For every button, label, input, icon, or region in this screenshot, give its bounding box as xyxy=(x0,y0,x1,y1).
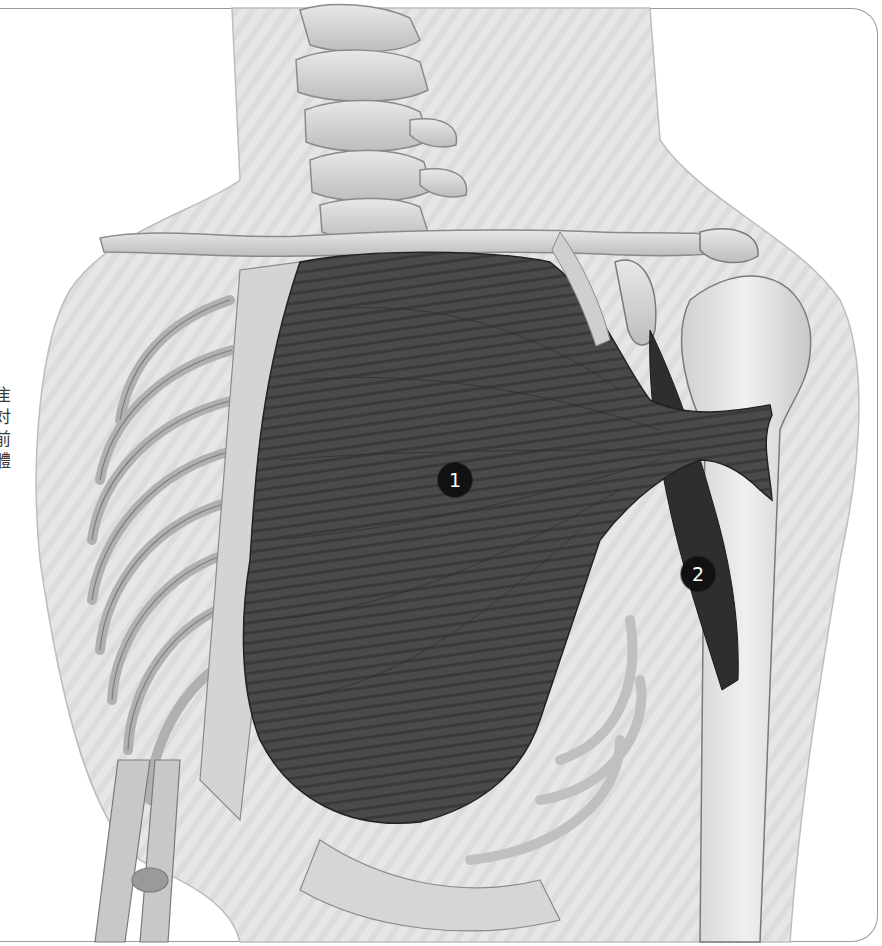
label-number: 2 xyxy=(692,563,704,585)
label-badge-2: 2 xyxy=(681,557,715,591)
figure-page: ; 隹 対 前 體 xyxy=(0,0,882,946)
label-number: 1 xyxy=(449,469,461,491)
label-badge-1: 1 xyxy=(438,463,472,497)
